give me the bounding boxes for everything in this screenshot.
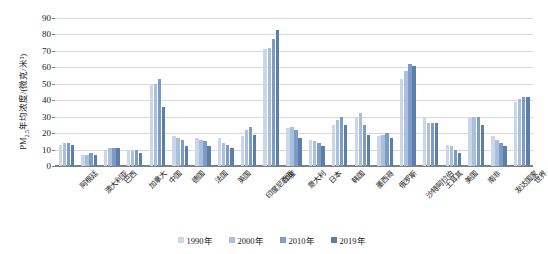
bar bbox=[499, 143, 502, 166]
bar bbox=[268, 48, 271, 166]
bar bbox=[67, 143, 70, 166]
y-axis-title-suffix: 年均浓度/(微克/米³) bbox=[18, 54, 28, 130]
bar-group bbox=[419, 18, 442, 166]
legend-label: 2000年 bbox=[238, 234, 264, 246]
bar bbox=[245, 130, 248, 166]
bar-group bbox=[305, 18, 328, 166]
bar-group bbox=[237, 18, 260, 166]
x-tick-label: 美国 bbox=[463, 169, 479, 185]
bar bbox=[158, 79, 161, 166]
bar bbox=[472, 117, 475, 166]
bar bbox=[518, 99, 521, 166]
bar bbox=[272, 39, 275, 166]
bar-group bbox=[55, 18, 78, 166]
bar-group bbox=[510, 18, 533, 166]
bar bbox=[454, 150, 457, 166]
bar bbox=[230, 148, 233, 166]
bar bbox=[139, 153, 142, 166]
bar bbox=[526, 97, 529, 166]
y-tick-label: 90 bbox=[42, 13, 51, 23]
bar bbox=[290, 127, 293, 166]
bar bbox=[491, 136, 494, 166]
legend-swatch bbox=[331, 237, 337, 243]
y-tick-label: 30 bbox=[42, 112, 51, 122]
bar bbox=[218, 138, 221, 166]
legend-item[interactable]: 2000年 bbox=[229, 234, 264, 246]
bar bbox=[176, 138, 179, 166]
x-tick-label: 德国 bbox=[190, 169, 206, 185]
bar bbox=[116, 148, 119, 166]
bar bbox=[423, 118, 426, 166]
bar bbox=[355, 118, 358, 166]
bar bbox=[495, 140, 498, 166]
bar bbox=[435, 123, 438, 166]
bar bbox=[503, 146, 506, 166]
bar bbox=[172, 136, 175, 166]
bar bbox=[131, 151, 134, 166]
x-tick-label: 中国 bbox=[168, 169, 184, 185]
bar bbox=[446, 145, 449, 166]
legend-swatch bbox=[178, 237, 184, 243]
bar bbox=[294, 130, 297, 166]
bar bbox=[276, 30, 279, 166]
bar-group bbox=[123, 18, 146, 166]
bar-group bbox=[192, 18, 215, 166]
bar bbox=[249, 127, 252, 166]
bar bbox=[94, 155, 97, 167]
legend-item[interactable]: 1990年 bbox=[178, 234, 213, 246]
bar bbox=[404, 71, 407, 166]
bar bbox=[336, 120, 339, 166]
bar bbox=[104, 150, 107, 166]
bar bbox=[450, 146, 453, 166]
bar bbox=[71, 145, 74, 166]
bar bbox=[408, 64, 411, 166]
bar bbox=[203, 141, 206, 166]
bar bbox=[108, 148, 111, 166]
bar bbox=[309, 140, 312, 166]
bar bbox=[241, 136, 244, 166]
x-tick-label: 加拿大 bbox=[147, 169, 168, 190]
bar bbox=[340, 117, 343, 166]
bar bbox=[477, 117, 480, 166]
bar-group bbox=[351, 18, 374, 166]
x-tick-label: 南非 bbox=[486, 169, 502, 185]
x-axis-labels: 阿根廷澳大利亚巴西加拿大中国德国法国英国印度尼西亚印度意大利日本韩国墨西哥俄罗斯… bbox=[55, 168, 533, 226]
x-tick-label: 法国 bbox=[213, 169, 229, 185]
chart-legend: 1990年2000年2010年2019年 bbox=[0, 234, 543, 246]
x-tick-label: 墨西哥 bbox=[374, 169, 395, 190]
x-tick-label: 英国 bbox=[236, 169, 252, 185]
bar bbox=[514, 102, 517, 166]
legend-item[interactable]: 2019年 bbox=[331, 234, 366, 246]
bar-group bbox=[488, 18, 511, 166]
bar-group bbox=[396, 18, 419, 166]
plot-area: 0102030405060708090 bbox=[55, 18, 533, 166]
y-tick-label: 60 bbox=[42, 62, 51, 72]
bar bbox=[363, 125, 366, 166]
bar bbox=[481, 125, 484, 166]
y-tick-label: 40 bbox=[42, 95, 51, 105]
x-tick-label: 日本 bbox=[327, 169, 343, 185]
bar bbox=[286, 128, 289, 166]
bar bbox=[185, 146, 188, 166]
bar bbox=[89, 153, 92, 166]
bar bbox=[427, 123, 430, 166]
bar bbox=[127, 151, 130, 166]
bar bbox=[313, 141, 316, 166]
bar-group bbox=[214, 18, 237, 166]
bar bbox=[400, 79, 403, 166]
bar bbox=[162, 107, 165, 166]
legend-item[interactable]: 2010年 bbox=[280, 234, 315, 246]
bar bbox=[199, 140, 202, 166]
bar-groups bbox=[55, 18, 533, 166]
bar bbox=[321, 146, 324, 166]
y-axis-title-subscript: 2.5 bbox=[24, 130, 30, 138]
legend-swatch bbox=[280, 237, 286, 243]
bar bbox=[59, 145, 62, 166]
y-tick-mark bbox=[52, 166, 55, 167]
x-tick-label: 俄罗斯 bbox=[397, 169, 418, 190]
bar bbox=[207, 146, 210, 166]
bar bbox=[317, 143, 320, 166]
bar bbox=[522, 97, 525, 166]
bar bbox=[112, 148, 115, 166]
